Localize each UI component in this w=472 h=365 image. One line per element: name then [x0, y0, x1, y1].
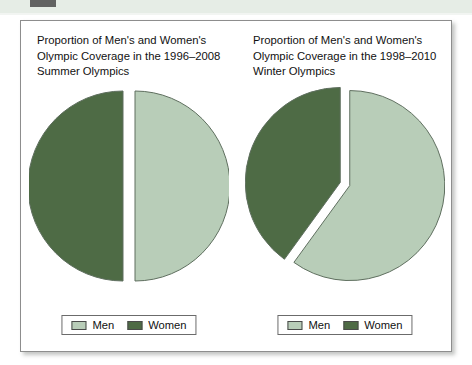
chart-title-line-3: Summer Olympics: [37, 64, 225, 80]
legend-swatch-men-icon: [71, 321, 86, 330]
figure-panel: Proportion of Men's and Women's Olympic …: [20, 20, 452, 352]
legend-label-men: Men: [92, 319, 114, 331]
chart-title-summer: Proportion of Men's and Women's Olympic …: [37, 33, 225, 80]
band-edge-divider: [0, 13, 472, 15]
chart-title-winter: Proportion of Men's and Women's Olympic …: [253, 33, 441, 80]
legend-item-men-winter[interactable]: Men: [287, 319, 330, 331]
pie-slice-men-summer[interactable]: [135, 91, 229, 281]
pie-chart-winter: [237, 81, 453, 293]
pie-slice-women-summer[interactable]: [29, 91, 123, 281]
legend-label-women: Women: [148, 319, 186, 331]
legend-item-women-winter[interactable]: Women: [343, 319, 402, 331]
legend-item-women-summer[interactable]: Women: [127, 319, 186, 331]
legend-swatch-women-icon: [127, 321, 142, 330]
figure-number-mark: [30, 0, 56, 7]
legend-summer: Men Women: [61, 315, 196, 335]
chart-title-line-2: Olympic Coverage in the 1998–2010: [253, 49, 441, 65]
legend-label-women: Women: [364, 319, 402, 331]
legend-winter: Men Women: [277, 315, 412, 335]
pie-chart-summer: [21, 81, 237, 293]
page-top-band: [0, 0, 472, 13]
pie-svg-winter: [245, 81, 445, 287]
legend-item-men-summer[interactable]: Men: [71, 319, 114, 331]
legend-swatch-women-icon: [343, 321, 358, 330]
chart-title-line-1: Proportion of Men's and Women's: [37, 33, 225, 49]
chart-column-summer: Proportion of Men's and Women's Olympic …: [21, 21, 237, 353]
pie-svg-summer: [29, 81, 229, 287]
chart-title-line-3: Winter Olympics: [253, 64, 441, 80]
legend-label-men: Men: [308, 319, 330, 331]
chart-title-line-1: Proportion of Men's and Women's: [253, 33, 441, 49]
legend-swatch-men-icon: [287, 321, 302, 330]
chart-title-line-2: Olympic Coverage in the 1996–2008: [37, 49, 225, 65]
chart-column-winter: Proportion of Men's and Women's Olympic …: [237, 21, 453, 353]
